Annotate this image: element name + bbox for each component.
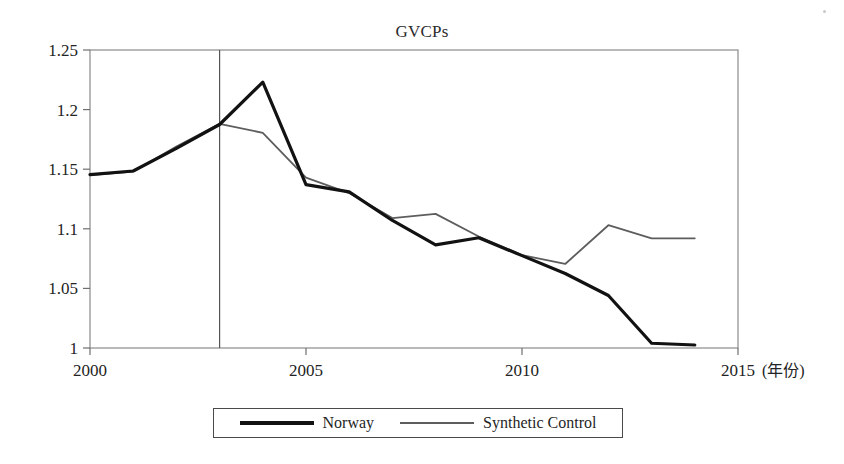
y-tick-label: 1: [70, 339, 79, 358]
legend-item-norway: Norway: [240, 414, 375, 432]
y-tick-label: 1.05: [48, 279, 78, 298]
legend-swatch-norway-icon: [240, 421, 314, 425]
legend-item-synthetic-control: Synthetic Control: [400, 414, 596, 432]
x-tick-label: 2015: [721, 361, 755, 380]
x-tick-label: 2000: [73, 361, 107, 380]
chart-figure: GVCPs 11.051.11.151.21.25200020052010201…: [0, 0, 844, 464]
x-tick-label: 2010: [505, 361, 539, 380]
y-tick-label: 1.2: [57, 101, 78, 120]
axis-tick-labels: 11.051.11.151.21.252000200520102015(年份): [48, 41, 804, 380]
chart-legend: Norway Synthetic Control: [213, 408, 623, 438]
legend-label-synthetic-control: Synthetic Control: [483, 414, 596, 432]
x-tick-label: 2005: [289, 361, 323, 380]
data-series-lines: [90, 82, 695, 345]
line-chart-plot: 11.051.11.151.21.252000200520102015(年份): [0, 0, 844, 464]
legend-swatch-synthetic-control-icon: [400, 422, 474, 424]
y-tick-label: 1.1: [57, 220, 78, 239]
legend-label-norway: Norway: [323, 414, 375, 432]
x-axis-unit-label: (年份): [762, 362, 805, 380]
plot-frame: [90, 50, 738, 348]
y-tick-label: 1.25: [48, 41, 78, 60]
y-tick-label: 1.15: [48, 160, 78, 179]
axis-ticks: [83, 50, 738, 355]
series-line-norway: [90, 82, 695, 345]
